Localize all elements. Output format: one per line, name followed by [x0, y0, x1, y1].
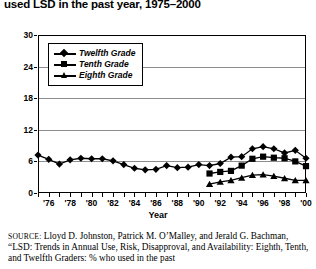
- x-axis-tick: [220, 193, 221, 197]
- y-axis-tick: [34, 35, 37, 36]
- x-axis-tick-label: '90: [187, 198, 211, 208]
- y-axis-tick: [34, 98, 37, 99]
- diamond-marker: [109, 157, 116, 164]
- x-axis-tick-label: '98: [273, 198, 297, 208]
- source-text: Lloyd D. Johnston, Patrick M. O’Malley, …: [8, 231, 308, 263]
- diamond-marker: [131, 165, 138, 172]
- square-marker: [271, 155, 277, 161]
- diamond-marker: [45, 156, 52, 163]
- x-axis-tick: [263, 193, 264, 197]
- x-axis-tick: [285, 193, 286, 197]
- x-axis-tick: [92, 193, 93, 197]
- x-axis-tick: [306, 193, 307, 197]
- x-axis-tick: [167, 193, 168, 197]
- square-marker: [228, 168, 234, 174]
- y-axis-tick: [34, 161, 37, 162]
- square-marker: [249, 156, 255, 162]
- x-axis-tick: [210, 193, 211, 197]
- x-axis-tick: [274, 193, 275, 197]
- x-axis-tick: [295, 193, 296, 197]
- x-axis-tick-label: '96: [251, 198, 275, 208]
- x-axis-tick: [70, 193, 71, 197]
- square-marker: [217, 169, 223, 175]
- square-marker: [206, 170, 212, 176]
- diamond-marker: [99, 155, 106, 162]
- diamond-marker: [163, 162, 170, 169]
- diamond-marker: [206, 162, 213, 169]
- diamond-marker: [217, 160, 224, 167]
- diamond-marker: [120, 161, 127, 168]
- x-axis-tick: [81, 193, 82, 197]
- diamond-marker: [174, 164, 181, 171]
- diamond-marker: [88, 155, 95, 162]
- x-axis-tick: [242, 193, 243, 197]
- x-axis-tick-label: '76: [37, 198, 61, 208]
- x-axis-tick-label: '92: [208, 198, 232, 208]
- diamond-marker: [184, 164, 191, 171]
- x-axis-tick: [134, 193, 135, 197]
- x-axis-tick: [102, 193, 103, 197]
- chart-figure: used LSD in the past year, 1975–2000 Twe…: [0, 0, 316, 269]
- x-axis-tick: [145, 193, 146, 197]
- x-axis-tick-label: '82: [101, 198, 125, 208]
- y-axis-tick: [34, 67, 37, 68]
- series-line: [210, 175, 306, 184]
- diamond-marker: [67, 156, 74, 163]
- diamond-marker: [77, 155, 84, 162]
- y-axis-tick-label: 30: [7, 31, 33, 39]
- square-marker: [303, 163, 309, 169]
- y-axis-tick-label: 0: [7, 189, 33, 197]
- x-axis-title: Year: [0, 210, 316, 220]
- x-axis-tick-label: '80: [80, 198, 104, 208]
- diamond-marker: [195, 161, 202, 168]
- y-axis-tick: [34, 130, 37, 131]
- x-axis-tick: [113, 193, 114, 197]
- square-marker: [239, 163, 245, 169]
- x-axis-tick-label: '88: [165, 198, 189, 208]
- x-axis-tick-label: '78: [58, 198, 82, 208]
- y-axis-tick-label: 24: [7, 63, 33, 71]
- diamond-marker: [270, 145, 277, 152]
- diamond-marker: [227, 154, 234, 161]
- square-marker: [281, 155, 287, 161]
- square-marker: [292, 158, 298, 164]
- data-series-layer: [0, 0, 316, 269]
- y-axis-tick-label: 18: [7, 94, 33, 102]
- y-axis-tick-label: 12: [7, 126, 33, 134]
- x-axis-tick-label: '84: [122, 198, 146, 208]
- diamond-marker: [260, 143, 267, 150]
- square-marker: [260, 154, 266, 160]
- x-axis-tick: [124, 193, 125, 197]
- source-note: SOURCE: Lloyd D. Johnston, Patrick M. O’…: [8, 231, 310, 265]
- x-axis-tick-label: '86: [144, 198, 168, 208]
- diamond-marker: [152, 166, 159, 173]
- x-axis-tick: [252, 193, 253, 197]
- x-axis-tick: [231, 193, 232, 197]
- x-axis-tick: [49, 193, 50, 197]
- series-twelfth-grade: [34, 143, 309, 173]
- x-axis-tick: [199, 193, 200, 197]
- diamond-marker: [142, 166, 149, 173]
- x-axis-tick: [177, 193, 178, 197]
- source-prefix: SOURCE:: [8, 232, 41, 241]
- x-axis-tick: [156, 193, 157, 197]
- x-axis-tick: [188, 193, 189, 197]
- x-axis-tick: [38, 193, 39, 197]
- x-axis-tick-label: '94: [230, 198, 254, 208]
- y-axis-tick: [34, 193, 37, 194]
- diamond-marker: [34, 151, 41, 158]
- diamond-marker: [56, 160, 63, 167]
- x-axis-tick: [59, 193, 60, 197]
- series-line: [210, 157, 306, 174]
- x-axis-tick-label: '00: [294, 198, 316, 208]
- y-axis-tick-label: 6: [7, 157, 33, 165]
